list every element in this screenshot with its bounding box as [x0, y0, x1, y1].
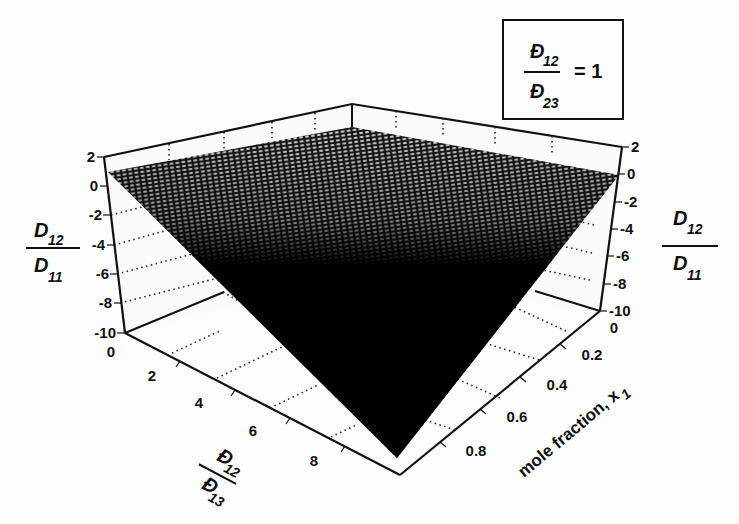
z-tick-left: 0	[90, 177, 98, 194]
svg-text:= 1: = 1	[574, 60, 602, 82]
z-tick-left: -8	[99, 294, 112, 311]
mole-tick: 0.4	[547, 376, 569, 393]
svg-text:12: 12	[543, 53, 559, 69]
z-tick-left: -4	[92, 236, 106, 253]
legend-box: Đ 12 Đ 23 = 1	[503, 20, 623, 119]
z-tick-left: -6	[96, 265, 109, 282]
svg-text:12: 12	[687, 221, 703, 237]
z-tick-left: -10	[94, 324, 116, 341]
z-tick-right: -4	[620, 220, 634, 237]
mole-tick: 0.2	[582, 346, 603, 363]
ratio-tick: 8	[310, 452, 318, 469]
z-tick-right: -8	[613, 275, 626, 292]
svg-text:D: D	[34, 254, 48, 276]
z-axis-title-left: D 12 D 11	[26, 219, 80, 285]
z-axis-title-right: D 12 D 11	[662, 207, 718, 283]
mole-tick: 0	[610, 319, 618, 336]
z-tick-left: -2	[89, 206, 102, 223]
ratio-tick: 4	[195, 394, 204, 411]
z-tick-right: 2	[631, 138, 639, 155]
ratio-tick: 2	[148, 367, 156, 384]
svg-text:mole fraction, x: mole fraction, x	[514, 385, 623, 481]
z-tick-right: -6	[616, 247, 629, 264]
svg-text:11: 11	[687, 267, 702, 283]
ratio-axis-title: Đ 12 Đ 13	[184, 438, 250, 512]
svg-text:12: 12	[48, 232, 64, 248]
mole-axis-title: mole fraction, x 1	[514, 379, 634, 485]
svg-text:D: D	[34, 219, 48, 241]
svg-text:23: 23	[542, 95, 559, 111]
z-tick-left: 2	[87, 148, 95, 165]
svg-text:D: D	[673, 207, 687, 229]
ratio-tick: 0	[107, 343, 115, 360]
ratio-tick: 6	[249, 422, 257, 439]
surface-plot: 2 0 -2 -4 -6 -8 -10 2 0 -2 -4 -6 -8 -10	[0, 0, 739, 524]
z-tick-right: -2	[624, 193, 637, 210]
z-tick-right: 0	[627, 165, 635, 182]
mole-tick: 0.6	[507, 408, 528, 425]
svg-text:11: 11	[48, 269, 63, 285]
z-tick-right: -10	[609, 302, 631, 319]
svg-text:D: D	[673, 252, 687, 274]
mole-tick: 0.8	[466, 442, 487, 459]
